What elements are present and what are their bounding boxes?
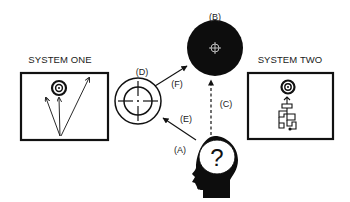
maze-path-icon — [279, 97, 296, 130]
diagram-canvas: ? SYSTEM ONE SYSTEM TWO (B) (D) (A) (C) … — [0, 0, 350, 202]
system-one-title: SYSTEM ONE — [28, 54, 91, 65]
target-icon — [52, 81, 66, 95]
edge-c-label: (C) — [220, 99, 233, 109]
system-two-box — [248, 73, 333, 139]
node-d-crosshair — [115, 78, 161, 124]
node-a-label: (A) — [174, 145, 186, 155]
target-icon — [282, 81, 295, 94]
node-d-label: (D) — [136, 67, 149, 77]
node-b-target — [187, 20, 243, 76]
node-a-head-icon: ? — [192, 136, 238, 198]
system-one-box — [21, 73, 108, 140]
edge-e-label: (E) — [180, 114, 192, 124]
question-mark-icon: ? — [210, 144, 223, 171]
edge-f-label: (F) — [171, 79, 183, 89]
system-two-title: SYSTEM TWO — [258, 54, 323, 65]
node-b-label: (B) — [209, 12, 221, 22]
